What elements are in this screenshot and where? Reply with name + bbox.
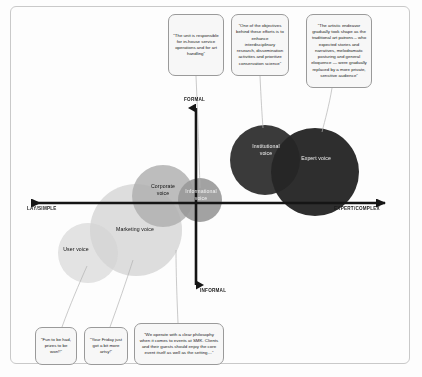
callout-text: “Fun to be had, prizes to be won!!” [40,337,72,356]
axis-label-informal: INFORMAL [200,288,226,293]
callout-text: “Your Friday just got a bit more artsy!” [89,337,123,356]
leader-artistic-endeavor [322,88,332,132]
callout-fun-prizes: “Fun to be had, prizes to be won!!” [35,327,77,365]
leader-smk-events-philosophy [176,250,178,323]
callout-artistic-endeavor: “The artistic endeavor gradually took sh… [306,14,372,88]
callout-interdisciplinary-research: “One of the objectives behind these effo… [231,14,289,76]
callout-text: “The artistic endeavor gradually took sh… [311,23,367,79]
diagram-canvas: User voice Marketing voice Corporate voi… [0,0,422,377]
callout-text: “One of the objectives behind these effo… [236,23,284,67]
leader-interdisciplinary-research [260,76,263,128]
axis-label-formal: FORMAL [184,97,205,102]
callout-friday-artsy: “Your Friday just got a bit more artsy!” [84,327,128,365]
callout-smk-events-philosophy: “We operate with a clear philosophy when… [134,323,224,365]
callout-text: “We operate with a clear philosophy when… [139,332,219,357]
axis-label-lay-simple: LAY/SIMPLE [27,206,57,211]
callout-in-house-service: “The unit is responsible for in-house se… [168,14,224,76]
axis-label-expert-complex: EXPERT/COMPLEX [334,206,380,211]
callout-text: “The unit is responsible for in-house se… [173,33,219,58]
